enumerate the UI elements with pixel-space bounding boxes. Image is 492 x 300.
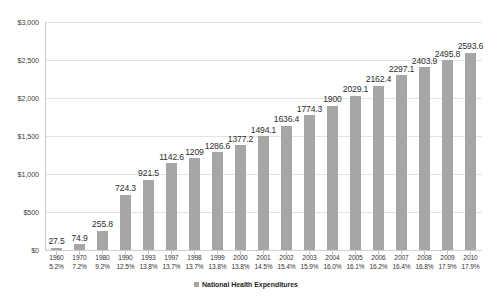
x-axis-category: 200315.9% xyxy=(298,255,321,271)
bar-value-label: 2403.9 xyxy=(412,56,437,66)
x-axis-year-label: 2000 xyxy=(229,255,252,262)
bar-value-label: 2495.8 xyxy=(435,49,460,59)
x-axis-percent-label: 15.9% xyxy=(298,264,321,271)
x-axis-percent-label: 16.8% xyxy=(413,264,436,271)
x-axis-year-label: 1993 xyxy=(137,255,160,262)
bar-value-label: 1494.1 xyxy=(251,125,276,135)
x-axis-year-label: 1960 xyxy=(45,255,68,262)
legend-color-swatch xyxy=(194,282,199,287)
x-axis-category: 19809.2% xyxy=(91,255,114,271)
x-axis-percent-label: 13.7% xyxy=(160,264,183,271)
x-axis-percent-label: 12.5% xyxy=(114,264,137,271)
bar-value-label: 1636.4 xyxy=(274,114,299,124)
bar[interactable] xyxy=(327,106,338,250)
bar[interactable] xyxy=(51,248,62,250)
chart-legend: National Health Expenditures xyxy=(0,281,492,288)
bar-slot: 921.5 xyxy=(137,22,160,250)
bar-slot: 2495.8 xyxy=(436,22,459,250)
bar-value-label: 1142.6 xyxy=(159,152,184,162)
bar[interactable] xyxy=(350,96,361,250)
bar[interactable] xyxy=(258,136,269,250)
bar[interactable] xyxy=(304,115,315,250)
x-axis-category: 199012.5% xyxy=(114,255,137,271)
legend-label: National Health Expenditures xyxy=(202,281,298,288)
bar[interactable] xyxy=(396,75,407,250)
x-axis-year-label: 2003 xyxy=(298,255,321,262)
bar[interactable] xyxy=(419,67,430,250)
x-axis-percent-label: 13.8% xyxy=(206,264,229,271)
x-axis-percent-label: 9.2% xyxy=(91,264,114,271)
x-axis-year-label: 1970 xyxy=(68,255,91,262)
bar[interactable] xyxy=(97,231,108,250)
bar-value-label: 2162.4 xyxy=(366,74,391,84)
x-axis-category: 200816.8% xyxy=(413,255,436,271)
bar[interactable] xyxy=(373,86,384,250)
x-axis-percent-label: 16.4% xyxy=(390,264,413,271)
y-axis-tick-label: $3,000 xyxy=(18,18,39,27)
bar[interactable] xyxy=(74,244,85,250)
x-axis-category: 200516.1% xyxy=(344,255,367,271)
x-axis-year-label: 2004 xyxy=(321,255,344,262)
bar-slot: 27.5 xyxy=(45,22,68,250)
bar[interactable] xyxy=(120,195,131,250)
x-axis-year-label: 2008 xyxy=(413,255,436,262)
x-axis-category: 200716.4% xyxy=(390,255,413,271)
bar-value-label: 27.5 xyxy=(48,236,64,246)
x-axis-category: 199713.7% xyxy=(160,255,183,271)
x-axis-year-label: 1999 xyxy=(206,255,229,262)
bar-slot: 1494.1 xyxy=(252,22,275,250)
bar-value-label: 1774.3 xyxy=(297,104,322,114)
bar-value-label: 1286.6 xyxy=(205,141,230,151)
x-axis-category: 200013.8% xyxy=(229,255,252,271)
y-axis-tick-label: $1,500 xyxy=(18,132,39,141)
bar-slot: 1286.6 xyxy=(206,22,229,250)
x-axis-category: 200616.2% xyxy=(367,255,390,271)
bar[interactable] xyxy=(189,158,200,250)
bar-series: 27.574.9255.8724.3921.51142.612091286.61… xyxy=(45,22,482,250)
x-axis-year-label: 2006 xyxy=(367,255,390,262)
x-axis-percent-label: 16.0% xyxy=(321,264,344,271)
bar-value-label: 255.8 xyxy=(92,219,113,229)
bar-value-label: 2029.1 xyxy=(343,84,368,94)
x-axis-percent-label: 16.2% xyxy=(367,264,390,271)
x-axis-year-label: 2009 xyxy=(436,255,459,262)
bar-slot: 2593.6 xyxy=(459,22,482,250)
bar[interactable] xyxy=(442,60,453,250)
x-axis-year-label: 1980 xyxy=(91,255,114,262)
x-axis-percent-label: 14.5% xyxy=(252,264,275,271)
bar[interactable] xyxy=(281,126,292,250)
x-axis-percent-label: 5.2% xyxy=(45,264,68,271)
bar[interactable] xyxy=(235,145,246,250)
y-axis-tick-label: $2,500 xyxy=(18,56,39,65)
x-axis-year-label: 1990 xyxy=(114,255,137,262)
x-axis-percent-label: 17.9% xyxy=(436,264,459,271)
bar[interactable] xyxy=(143,180,154,250)
x-axis-percent-label: 16.1% xyxy=(344,264,367,271)
bar-value-label: 1900 xyxy=(323,94,342,104)
bar-slot: 1209 xyxy=(183,22,206,250)
x-axis-category: 19605.2% xyxy=(45,255,68,271)
bar-slot: 1636.4 xyxy=(275,22,298,250)
bar-slot: 2297.1 xyxy=(390,22,413,250)
x-axis-category: 19707.2% xyxy=(68,255,91,271)
x-axis-category: 201017.9% xyxy=(459,255,482,271)
bar[interactable] xyxy=(465,53,476,250)
bar-slot: 2162.4 xyxy=(367,22,390,250)
x-axis-category: 200215.4% xyxy=(275,255,298,271)
bar-slot: 1774.3 xyxy=(298,22,321,250)
y-axis-tick-label: $2,000 xyxy=(18,94,39,103)
y-axis-tick-label: $0 xyxy=(31,246,39,255)
bar[interactable] xyxy=(212,152,223,250)
x-axis-percent-label: 7.2% xyxy=(68,264,91,271)
bar-slot: 2029.1 xyxy=(344,22,367,250)
bar-value-label: 1209 xyxy=(185,147,204,157)
bar[interactable] xyxy=(166,163,177,250)
x-axis-category: 200114.5% xyxy=(252,255,275,271)
bar-value-label: 2593.6 xyxy=(458,41,483,51)
x-axis-category: 199913.8% xyxy=(206,255,229,271)
bar-value-label: 1377.2 xyxy=(228,134,253,144)
y-axis-tick-label: $500 xyxy=(23,208,39,217)
chart-container: $3,000$2,500$2,000$1,500$1,000$500$0 27.… xyxy=(0,0,492,300)
x-axis-year-label: 2010 xyxy=(459,255,482,262)
bar-slot: 255.8 xyxy=(91,22,114,250)
